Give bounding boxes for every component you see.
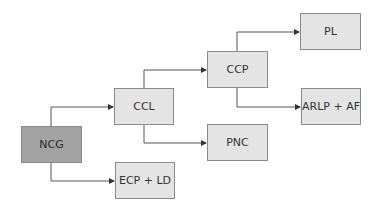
node-ccl: CCL <box>114 88 174 125</box>
node-label: CCP <box>227 63 249 76</box>
node-pl: PL <box>300 13 361 50</box>
node-label: ARLP + AF <box>302 100 360 113</box>
edge-ccp-arlp-af <box>237 88 300 107</box>
node-label: ECP + LD <box>119 174 171 187</box>
node-label: CCL <box>133 100 155 113</box>
node-ecp-ld: ECP + LD <box>115 162 175 199</box>
node-ccp: CCP <box>207 51 268 88</box>
node-ncg: NCG <box>21 126 82 163</box>
edge-ccl-ccp <box>144 70 206 88</box>
edge-ncg-ecp-ld <box>51 163 114 181</box>
node-arlp-af: ARLP + AF <box>301 88 361 125</box>
node-pnc: PNC <box>207 124 268 161</box>
edge-ccp-pl <box>237 32 299 51</box>
node-label: PL <box>324 25 337 38</box>
edge-ccl-pnc <box>144 125 206 143</box>
edge-ncg-ccl <box>51 107 113 126</box>
node-label: PNC <box>226 136 249 149</box>
node-label: NCG <box>39 138 63 151</box>
